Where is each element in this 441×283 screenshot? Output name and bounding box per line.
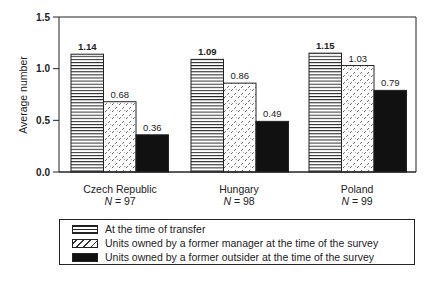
bars: 1.140.680.361.090.860.491.151.030.79 <box>71 40 407 172</box>
transfer-bar <box>309 53 342 172</box>
y-tick-label: 1.5 <box>36 12 50 23</box>
bar-value-label: 0.36 <box>143 122 162 133</box>
former-outsider-bar <box>136 135 169 172</box>
bar-value-label: 0.79 <box>381 77 400 88</box>
solid-swatch-icon <box>72 253 98 262</box>
bar-value-label: 1.15 <box>316 40 335 51</box>
category-hungary: Hungary N = 98 <box>179 183 299 207</box>
legend: At the time of transfer Units owned by a… <box>59 219 415 265</box>
diagonal-hatch-swatch-icon <box>72 239 98 248</box>
y-axis: 0.00.51.01.5 <box>36 12 59 178</box>
y-tick-label: 0.0 <box>36 167 50 178</box>
legend-item-transfer: At the time of transfer <box>72 223 205 235</box>
bar-value-label: 0.68 <box>111 89 130 100</box>
legend-item-former-outsider: Units owned by a former outsider at the … <box>72 251 374 263</box>
bar-value-label: 1.03 <box>349 53 368 64</box>
transfer-bar <box>191 59 224 172</box>
bar-value-label: 1.09 <box>198 46 217 57</box>
former-outsider-bar <box>374 90 407 172</box>
category-poland: Poland N = 99 <box>297 183 417 207</box>
y-tick-label: 0.5 <box>36 115 50 126</box>
y-tick-label: 1.0 <box>36 63 50 74</box>
category-czech: Czech Republic N = 97 <box>60 183 180 207</box>
y-axis-label: Average number <box>17 56 29 134</box>
bar-value-label: 0.86 <box>231 70 250 81</box>
former-manager-bar <box>224 83 257 172</box>
horizontal-lines-swatch-icon <box>72 225 98 234</box>
legend-item-former-manager: Units owned by a former manager at the t… <box>72 237 378 249</box>
bar-value-label: 0.49 <box>263 108 282 119</box>
former-manager-bar <box>104 102 137 172</box>
transfer-bar <box>71 54 104 172</box>
bar-value-label: 1.14 <box>78 41 97 52</box>
former-outsider-bar <box>256 121 289 172</box>
former-manager-bar <box>342 66 375 172</box>
